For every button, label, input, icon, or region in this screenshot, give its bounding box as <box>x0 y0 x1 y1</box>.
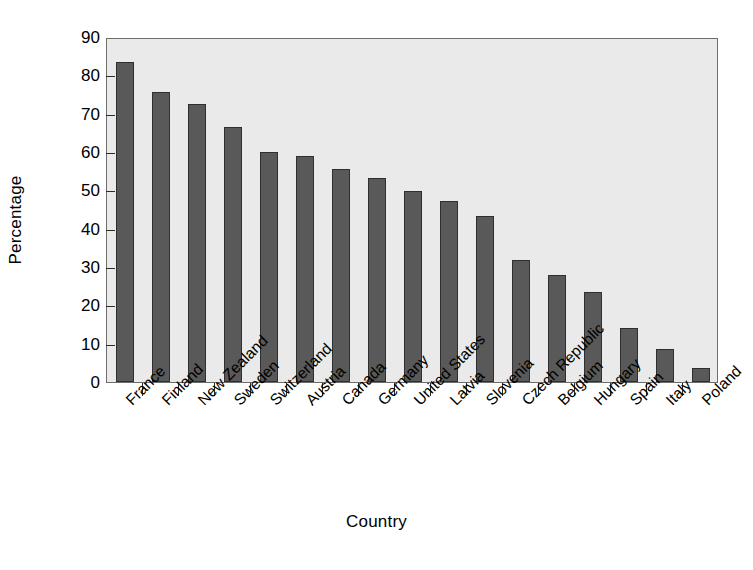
y-tick-mark <box>106 153 115 154</box>
y-axis-tick-labels: 0102030405060708090 <box>60 0 100 570</box>
bar[interactable] <box>296 156 314 382</box>
y-tick-mark <box>106 191 115 192</box>
x-axis-title: Country <box>0 512 753 532</box>
bar[interactable] <box>368 178 386 382</box>
bar[interactable] <box>476 216 494 382</box>
plot-area <box>106 38 718 383</box>
y-tick-label: 0 <box>64 374 100 391</box>
y-tick-label: 90 <box>64 29 100 46</box>
y-tick-mark <box>106 345 115 346</box>
y-tick-mark <box>106 306 115 307</box>
bar[interactable] <box>332 169 350 382</box>
y-tick-label: 40 <box>64 221 100 238</box>
bar[interactable] <box>152 92 170 382</box>
y-tick-label: 20 <box>64 297 100 314</box>
y-tick-label: 70 <box>64 106 100 123</box>
y-tick-mark <box>106 76 115 77</box>
bars-layer <box>107 39 717 382</box>
y-tick-mark <box>106 230 115 231</box>
bar[interactable] <box>692 368 710 382</box>
bar-chart: Percentage 0102030405060708090 FranceFin… <box>0 0 753 570</box>
y-tick-mark <box>106 268 115 269</box>
y-tick-label: 60 <box>64 144 100 161</box>
y-tick-label: 50 <box>64 182 100 199</box>
bar[interactable] <box>224 127 242 382</box>
y-tick-label: 30 <box>64 259 100 276</box>
y-tick-mark <box>106 115 115 116</box>
bar[interactable] <box>188 104 206 382</box>
y-tick-label: 10 <box>64 336 100 353</box>
y-tick-label: 80 <box>64 67 100 84</box>
bar[interactable] <box>116 62 134 382</box>
y-axis-title: Percentage <box>6 140 26 300</box>
